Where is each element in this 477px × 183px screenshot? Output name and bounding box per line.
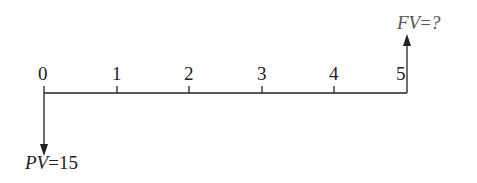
pv-eq: = bbox=[48, 152, 59, 173]
pv-label: PV=15 bbox=[25, 153, 78, 172]
period-label-5: 5 bbox=[396, 64, 406, 83]
period-label-4: 4 bbox=[329, 64, 339, 83]
period-label-0: 0 bbox=[38, 64, 48, 83]
period-label-3: 3 bbox=[257, 64, 267, 83]
pv-var: PV bbox=[25, 152, 48, 173]
fv-label: FV=? bbox=[397, 13, 440, 32]
period-label-1: 1 bbox=[112, 64, 122, 83]
fv-value: ? bbox=[431, 12, 441, 33]
fv-var: FV bbox=[397, 12, 420, 33]
fv-eq: = bbox=[420, 12, 431, 33]
fv-arrowhead bbox=[403, 34, 411, 46]
pv-value: 15 bbox=[59, 152, 78, 173]
period-label-2: 2 bbox=[184, 64, 194, 83]
